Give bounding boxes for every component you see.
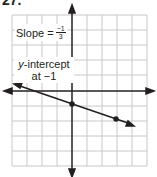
slope-prefix: Slope =	[16, 27, 54, 39]
slope-denominator: 3	[59, 33, 63, 40]
intercept-value: at −1	[14, 70, 74, 82]
second-point	[114, 117, 118, 121]
slope-fraction: −1 3	[56, 25, 66, 40]
y-intercept-point	[70, 102, 74, 106]
intercept-annotation: y-intercept at −1	[14, 57, 74, 83]
slope-annotation: Slope = −1 3	[15, 24, 67, 41]
intercept-label: -intercept	[24, 58, 70, 70]
graphed-line	[14, 83, 134, 126]
slope-numerator: −1	[56, 25, 66, 33]
